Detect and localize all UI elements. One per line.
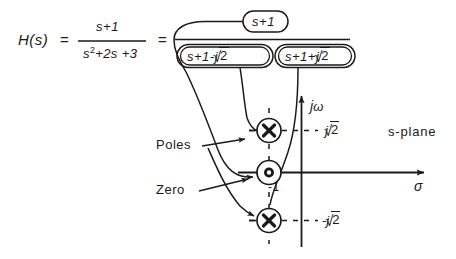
equation-lhs: H(s) [18,31,48,48]
equation-equals-1: = [60,31,69,48]
radical-sign-2: √ [314,48,323,65]
denominator-s-term: s [83,46,90,61]
imaginary-axis-label: jω [310,98,323,114]
tick-upper-radical: √2 [330,121,339,137]
plane-label: s-plane [388,124,436,139]
poles-leader-line [202,139,245,146]
poles-leader-curve-lower [208,148,254,216]
equation-equals-2: = [158,31,167,48]
imag-axis-omega: ω [313,99,323,114]
tick-label-lower: -j √2 [322,212,340,228]
tick-lower-radical: √2 [331,211,340,227]
tick-label-real-minus-one: -1 [268,180,279,194]
leader-factor1-to-upper-pole [240,68,258,132]
radical-sign-lower: √ [325,212,333,229]
tick-label-upper: j √2 [325,122,339,138]
poles-label: Poles [156,137,191,152]
equation-numerator: s+1 [96,19,119,34]
denominator-rest: +2s +3 [95,46,137,61]
factor2-radical: √2 [320,47,330,63]
factor2-text: s+1+j √2 [285,48,330,64]
radical-sign-upper: √ [324,122,332,139]
factor1-text: s+1-j √2 [187,48,229,64]
figure-canvas: H(s) = s+1 s2+2s +3 = s+1 s+1-j √2 s+1+j… [0,0,456,259]
radical-sign-1: √ [213,48,222,65]
numerator-bubble-text: s+1 [252,14,275,29]
factor1-radical: √2 [219,47,229,63]
equation-denominator: s2+2s +3 [83,45,137,61]
real-axis-label: σ [414,178,422,194]
zero-label: Zero [156,182,185,197]
